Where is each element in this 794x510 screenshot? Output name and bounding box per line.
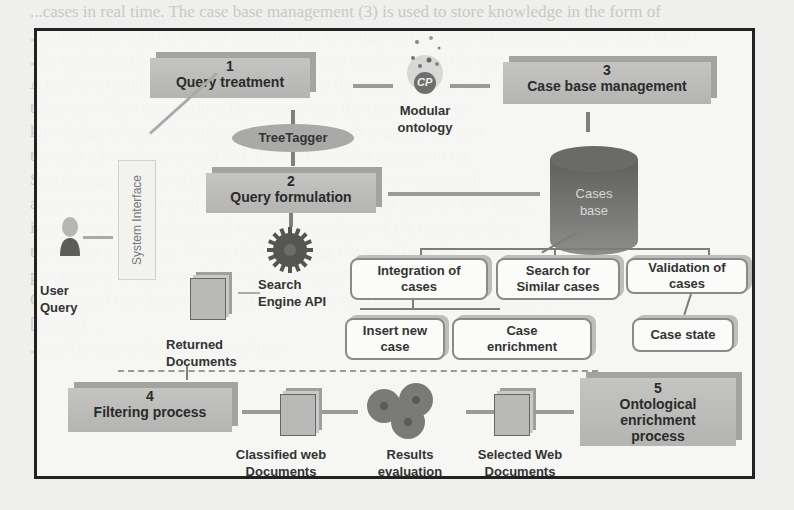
connector-tagger-formulation — [291, 152, 295, 166]
label-line: Results — [370, 446, 450, 463]
ontology-badge: CP — [417, 76, 432, 88]
label-line: Engine API — [258, 293, 338, 310]
label-line: Documents — [470, 463, 570, 480]
label-line: Search — [258, 276, 338, 293]
arrow-treatment-ontology — [353, 84, 393, 88]
modular-ontology-label: Modular ontology — [380, 102, 470, 136]
system-interface-label: System Interface — [130, 175, 144, 265]
user-query-label: User Query — [40, 282, 90, 316]
arrow-results-selected — [466, 410, 496, 414]
label-line: Integration of — [352, 263, 486, 279]
arrow-formulation-casesbase — [388, 192, 540, 196]
module-label: Filtering process — [68, 404, 232, 420]
case-op-case-state: Case state — [632, 318, 734, 352]
connector-integration-sub — [412, 300, 414, 308]
module-label: Ontological enrichment process — [580, 396, 736, 444]
arrow-user-interface — [83, 236, 113, 239]
label-line: ontology — [380, 119, 470, 136]
module-number: 5 — [580, 380, 736, 396]
bg-line: ...cases in real time. The case base man… — [30, 0, 794, 24]
label-line: base — [548, 202, 640, 219]
case-op-insert-new: Insert new case — [345, 318, 445, 360]
module-query-formulation: 2 Query formulation — [206, 173, 376, 213]
label-line: Cases — [548, 185, 640, 202]
module-label: Query treatment — [150, 74, 310, 90]
selected-documents-icon — [494, 394, 530, 436]
module-number: 3 — [503, 62, 711, 78]
system-interface-panel: System Interface — [118, 160, 156, 280]
module-label: Case base management — [503, 78, 711, 94]
module-label: Query formulation — [206, 189, 376, 205]
arrow-filtering-classified — [242, 410, 282, 414]
label-line: case — [347, 339, 443, 355]
case-op-search-similar: Search for Similar cases — [496, 258, 620, 300]
label-line: cases — [628, 276, 746, 292]
results-evaluation-label: Results evaluation — [370, 446, 450, 480]
connector-formulation-engine — [289, 213, 293, 227]
connector-treatment-tagger — [291, 110, 295, 124]
selected-web-documents-label: Selected Web Documents — [470, 446, 570, 480]
user-avatar-icon — [58, 216, 82, 256]
label-line: Selected Web — [470, 446, 570, 463]
search-engine-gear-icon — [266, 226, 314, 274]
module-ontological-enrichment: 5 Ontological enrichment process — [580, 378, 736, 446]
module-case-base-management: 3 Case base management — [503, 62, 711, 104]
label-line: cases — [352, 279, 486, 295]
label-line: Documents — [166, 353, 256, 370]
label-line: Case — [454, 323, 590, 339]
connector-tree-horizontal — [420, 248, 708, 250]
classified-web-documents-label: Classified web Documents — [226, 446, 336, 480]
classified-documents-icon — [280, 394, 316, 436]
treetagger-node: TreeTagger — [232, 124, 354, 152]
arrow-returned-filtering — [186, 366, 188, 380]
label-line: Validation of — [628, 260, 746, 276]
module-filtering-process: 4 Filtering process — [68, 388, 232, 432]
connector-tree-validation — [708, 248, 710, 258]
label-line: Case state — [634, 327, 732, 343]
connector-integration-sub-h — [360, 308, 500, 310]
arrow-classified-results — [322, 410, 358, 414]
arrow-engine-returned — [238, 292, 260, 294]
modular-ontology-icon — [395, 28, 455, 100]
label-line: Documents — [226, 463, 336, 480]
cases-base-label: Cases base — [548, 185, 640, 219]
label-line: Insert new — [347, 323, 443, 339]
connector-cbm-cases — [586, 112, 590, 132]
module-number: 4 — [68, 388, 232, 404]
arrow-selected-enrichment — [534, 410, 574, 414]
dashed-separator — [118, 370, 598, 372]
case-op-validation: Validation of cases — [626, 258, 748, 294]
label-line: Query — [40, 299, 90, 316]
connector-tree-search — [554, 248, 556, 258]
label-line: User — [40, 282, 90, 299]
arrow-ontology-casebase — [450, 84, 490, 88]
label-line: evaluation — [370, 463, 450, 480]
module-query-treatment: 1 Query treatment — [150, 58, 310, 98]
search-engine-api-label: Search Engine API — [258, 276, 338, 310]
label-line: Returned — [166, 336, 256, 353]
label-line: Search for — [498, 263, 618, 279]
label-line: Modular — [380, 102, 470, 119]
case-op-enrichment: Case enrichment — [452, 318, 592, 360]
label-line: Classified web — [226, 446, 336, 463]
label-line: enrichment — [454, 339, 590, 355]
connector-tree-integration — [420, 248, 422, 258]
returned-documents-icon — [190, 278, 226, 320]
module-number: 1 — [150, 58, 310, 74]
module-number: 2 — [206, 173, 376, 189]
results-evaluation-gears-icon — [364, 380, 444, 442]
label-line: Similar cases — [498, 279, 618, 295]
returned-documents-label: Returned Documents — [166, 336, 256, 370]
case-op-integration: Integration of cases — [350, 258, 488, 300]
